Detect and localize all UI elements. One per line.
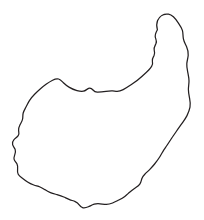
canvas-background [0,0,204,220]
outline-shape-svg: Hand-drawn closed outline silhouette [0,0,204,220]
drawing-canvas: Hand-drawn closed outline silhouette [0,0,204,220]
